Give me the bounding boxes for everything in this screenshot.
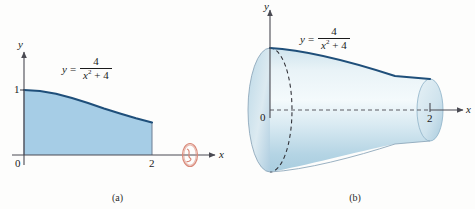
- x-axis-label-a: x: [219, 148, 224, 160]
- y-tick-label-1-a: 1: [14, 83, 20, 95]
- origin-label-b: 0: [260, 111, 266, 123]
- function-label-b: y = 4 x2 + 4: [300, 26, 350, 51]
- function-equals-b: =: [308, 33, 314, 45]
- denominator-exponent-a: 2: [88, 68, 92, 76]
- x-tick-label-2-a: 2: [149, 157, 155, 169]
- function-fraction-b: 4 x2 + 4: [318, 26, 350, 51]
- function-fraction-a: 4 x2 + 4: [80, 56, 112, 81]
- caption-a: (a): [0, 192, 235, 203]
- function-lhs-a: y: [62, 63, 67, 75]
- function-numerator-a: 4: [89, 56, 103, 68]
- function-label-a: y = 4 x2 + 4: [62, 56, 112, 81]
- function-denominator-b: x2 + 4: [318, 39, 350, 52]
- function-lhs-b: y: [300, 33, 305, 45]
- function-equals-a: =: [70, 63, 76, 75]
- x-tick-label-2-b: 2: [427, 112, 433, 124]
- figure-container: y x 0 1 2 y = 4 x2 + 4 (a): [0, 0, 475, 209]
- origin-label-a: 0: [15, 157, 21, 169]
- function-numerator-b: 4: [327, 26, 341, 38]
- panel-b-solid-of-revolution: y x 0 2 y = 4 x2 + 4 (b): [235, 0, 475, 209]
- denominator-exponent-b: 2: [326, 38, 330, 46]
- denominator-rest-a: + 4: [94, 69, 108, 81]
- denominator-rest-b: + 4: [332, 39, 346, 51]
- function-denominator-a: x2 + 4: [80, 69, 112, 82]
- panel-b-svg: [235, 0, 475, 209]
- caption-b: (b): [235, 192, 475, 203]
- panel-a-region-plot: y x 0 1 2 y = 4 x2 + 4 (a): [0, 0, 235, 209]
- left-cap-front-half: [248, 48, 270, 172]
- y-axis-label-b: y: [264, 0, 269, 12]
- y-axis-label-a: y: [18, 38, 23, 50]
- x-axis-label-b: x: [466, 103, 471, 115]
- shaded-region-a-fill: [24, 90, 152, 155]
- panel-a-svg: [0, 0, 235, 209]
